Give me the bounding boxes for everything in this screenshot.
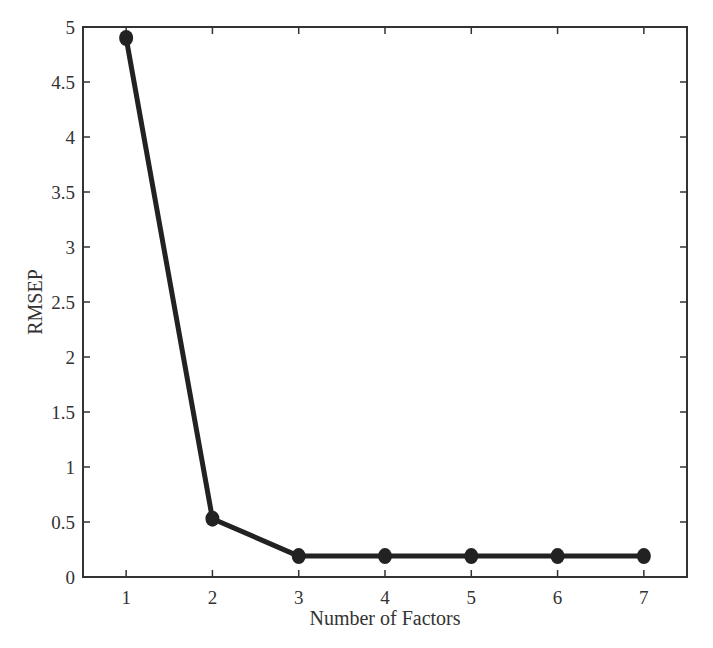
rmsep-chart: 00.511.522.533.544.55 1234567 Number of …	[0, 0, 713, 648]
y-tick-label: 0.5	[51, 512, 75, 533]
y-axis: 00.511.522.533.544.55	[51, 17, 687, 588]
y-axis-title: RMSEP	[24, 269, 46, 335]
x-tick-label: 7	[639, 587, 649, 608]
y-tick-label: 0	[66, 567, 76, 588]
y-tick-label: 3.5	[51, 182, 75, 203]
series-line	[126, 38, 644, 556]
data-point-marker	[292, 548, 306, 564]
x-tick-label: 4	[380, 587, 390, 608]
y-tick-label: 4	[66, 127, 76, 148]
x-axis-title: Number of Factors	[309, 607, 460, 629]
y-tick-label: 5	[66, 17, 76, 38]
y-tick-label: 1	[66, 457, 76, 478]
x-tick-label: 3	[294, 587, 304, 608]
y-tick-label: 4.5	[51, 72, 75, 93]
data-point-marker	[119, 30, 133, 46]
x-tick-label: 2	[208, 587, 218, 608]
x-tick-label: 5	[467, 587, 477, 608]
data-point-marker	[205, 511, 219, 527]
data-point-marker	[637, 548, 651, 564]
y-tick-label: 3	[66, 237, 76, 258]
data-point-marker	[378, 548, 392, 564]
data-point-marker	[464, 548, 478, 564]
y-tick-label: 2	[66, 347, 76, 368]
x-tick-label: 1	[121, 587, 131, 608]
data-point-marker	[551, 548, 565, 564]
y-tick-label: 2.5	[51, 292, 75, 313]
data-series	[119, 30, 651, 564]
x-tick-label: 6	[553, 587, 563, 608]
y-tick-label: 1.5	[51, 402, 75, 423]
x-axis: 1234567	[121, 27, 648, 608]
